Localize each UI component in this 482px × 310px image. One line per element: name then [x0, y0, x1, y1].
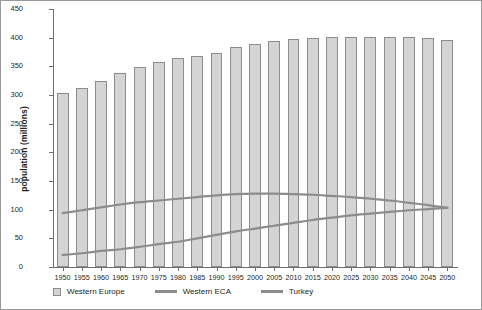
x-axis-tick [140, 267, 141, 271]
x-axis-tick [159, 267, 160, 271]
x-axis-tick [332, 267, 333, 271]
legend-item-turkey[interactable]: Turkey [261, 287, 313, 296]
x-axis-tick-label: 2050 [434, 274, 460, 281]
x-axis-tick [236, 267, 237, 271]
x-axis-tick [197, 267, 198, 271]
legend-label: Western Europe [67, 287, 125, 296]
y-axis-tick [49, 267, 53, 268]
line-turkey [63, 208, 448, 255]
x-axis-tick [409, 267, 410, 271]
legend-swatch-icon [53, 288, 61, 296]
y-axis-tick-label: 350 [0, 62, 23, 70]
legend-item-western-eca[interactable]: Western ECA [155, 287, 231, 296]
y-axis-tick-label: 50 [0, 234, 23, 242]
x-axis-tick [351, 267, 352, 271]
legend-label: Turkey [289, 287, 313, 296]
x-axis-tick [428, 267, 429, 271]
x-axis-tick [313, 267, 314, 271]
x-axis-tick [370, 267, 371, 271]
y-axis-tick-label: 250 [0, 120, 23, 128]
x-axis-tick [82, 267, 83, 271]
legend-line-icon [155, 290, 177, 293]
chart-legend: Western Europe Western ECA Turkey [53, 287, 343, 296]
x-axis-tick [217, 267, 218, 271]
x-axis-tick [447, 267, 448, 271]
y-axis-tick-label: 100 [0, 206, 23, 214]
y-axis-tick-label: 400 [0, 34, 23, 42]
x-axis-tick [293, 267, 294, 271]
line-western-eca [63, 194, 448, 214]
y-axis-tick-label: 200 [0, 148, 23, 156]
y-axis-tick-label: 450 [0, 5, 23, 13]
y-axis-tick-label: 300 [0, 91, 23, 99]
y-axis-tick-label: 150 [0, 177, 23, 185]
x-axis-tick [101, 267, 102, 271]
legend-line-icon [261, 290, 283, 293]
x-axis-tick [390, 267, 391, 271]
chart-frame: population (millions) 050100150200250300… [0, 0, 482, 310]
y-axis-tick-label: 0 [0, 263, 23, 271]
x-axis-tick [178, 267, 179, 271]
legend-label: Western ECA [183, 287, 231, 296]
x-axis-tick [274, 267, 275, 271]
x-axis-tick [255, 267, 256, 271]
x-axis-tick [120, 267, 121, 271]
plot-area: 050100150200250300350400450 195019551960… [53, 9, 457, 267]
line-series-layer [53, 9, 457, 267]
legend-item-western-europe[interactable]: Western Europe [53, 287, 125, 296]
x-axis-tick [63, 267, 64, 271]
